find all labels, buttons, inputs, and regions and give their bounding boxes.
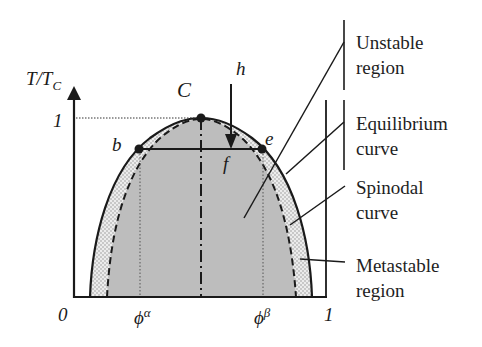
quench-h-label: h xyxy=(236,58,246,79)
y-tick-1: 1 xyxy=(53,110,63,131)
leader-unstable xyxy=(244,42,344,218)
point-e-label: e xyxy=(265,128,273,149)
y-axis-arrow-icon xyxy=(67,86,81,100)
y-axis-label: T/TC xyxy=(26,68,61,96)
point-b xyxy=(135,145,144,154)
x-end-label: 1 xyxy=(324,304,334,325)
point-f-label: f xyxy=(223,153,228,174)
legend-unstable-region: Unstableregion xyxy=(356,30,424,80)
critical-point xyxy=(197,114,206,123)
phi-beta-label: ϕβ xyxy=(254,302,270,328)
point-b-label: b xyxy=(112,134,122,155)
legend-metastable-region: Metastableregion xyxy=(356,253,439,303)
critical-point-label: C xyxy=(177,80,191,101)
x-origin-label: 0 xyxy=(58,304,68,325)
phase-diagram: T/TC 1 0 1 ϕα ϕβ C b e f h Unstableregio… xyxy=(0,0,482,347)
legend-spinodal-curve: Spinodalcurve xyxy=(356,175,424,225)
legend-equilibrium-curve: Equilibriumcurve xyxy=(356,111,448,161)
phi-alpha-label: ϕα xyxy=(134,302,151,328)
leader-spinodal xyxy=(290,186,345,225)
